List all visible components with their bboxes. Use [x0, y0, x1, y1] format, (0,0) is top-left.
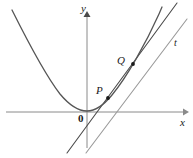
x-axis-label: x — [180, 117, 185, 128]
y-axis-label: y — [81, 3, 86, 14]
secant-line-pq — [67, 3, 177, 153]
origin-label: 0 — [78, 113, 84, 124]
figure-canvas — [0, 0, 193, 158]
tangent-line-label: t — [174, 38, 177, 48]
y-axis — [84, 11, 91, 148]
point-marker-p — [106, 96, 110, 100]
point-label-q: Q — [117, 55, 125, 66]
point-label-p: P — [96, 85, 103, 96]
x-axis-arrow-icon — [183, 109, 189, 116]
math-figure: y x 0 P Q t — [0, 0, 193, 158]
point-marker-q — [131, 62, 135, 66]
